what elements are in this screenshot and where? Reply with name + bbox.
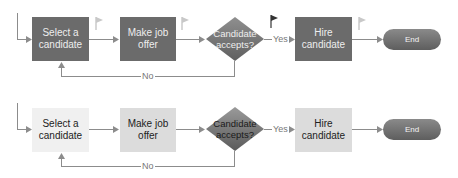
step-make-job-offer[interactable]: Make job offer — [120, 17, 176, 61]
end-label: End — [405, 125, 419, 134]
step-select-candidate[interactable]: Select a candidate — [32, 17, 89, 61]
yes-label: Yes — [272, 124, 289, 134]
arrow-icon — [199, 126, 205, 133]
step-label: Hire candidate — [297, 118, 350, 142]
decision-label: Candidate — [213, 28, 256, 39]
step-label: candidate — [39, 39, 82, 51]
connector — [352, 39, 378, 40]
step-label: Make job offer — [122, 27, 174, 51]
end-terminal[interactable]: End — [383, 29, 441, 50]
no-connector-vertical — [234, 151, 235, 166]
arrow-icon — [113, 126, 119, 133]
step-hire-candidate[interactable]: Hire candidate — [295, 17, 352, 61]
decision-candidate-accepts[interactable]: Candidate accepts? — [206, 107, 264, 151]
connector — [176, 129, 200, 130]
arrow-icon — [199, 36, 205, 43]
flag-icon — [181, 17, 190, 30]
decision-label: accepts? — [213, 129, 256, 140]
flag-icon — [270, 15, 279, 28]
no-connector-vertical — [234, 61, 235, 76]
step-hire-candidate[interactable]: Hire candidate — [295, 108, 352, 152]
step-label: Hire candidate — [297, 27, 350, 51]
step-make-job-offer[interactable]: Make job offer — [120, 108, 176, 152]
no-label: No — [141, 161, 155, 171]
incoming-connector-vertical — [17, 103, 18, 130]
flag-icon — [358, 17, 367, 30]
step-label: Select a — [39, 27, 82, 39]
arrow-up-icon — [58, 153, 65, 159]
yes-label: Yes — [272, 34, 289, 44]
decision-label: Candidate — [213, 118, 256, 129]
arrow-up-icon — [58, 62, 65, 68]
incoming-connector-vertical — [17, 13, 18, 40]
step-label: Select a — [39, 118, 82, 130]
no-label: No — [141, 71, 155, 81]
arrow-icon — [113, 36, 119, 43]
step-label: candidate — [39, 130, 82, 142]
connector — [89, 39, 115, 40]
decision-candidate-accepts[interactable]: Candidate accepts? — [206, 17, 264, 61]
connector — [176, 39, 200, 40]
step-label: Make job offer — [122, 118, 174, 142]
flag-icon — [95, 17, 104, 30]
connector — [352, 129, 378, 130]
decision-label: accepts? — [213, 39, 256, 50]
end-label: End — [405, 35, 419, 44]
connector — [89, 129, 115, 130]
step-select-candidate[interactable]: Select a candidate — [32, 108, 89, 152]
end-terminal[interactable]: End — [383, 119, 441, 140]
